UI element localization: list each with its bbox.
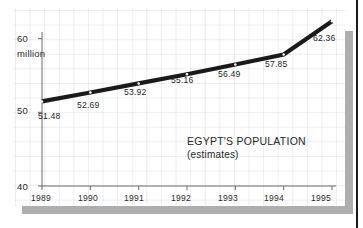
line-chart-svg (14, 8, 345, 206)
x-tick-label-1994: 1994 (264, 194, 284, 203)
x-tick-label-1992: 1992 (171, 194, 191, 203)
x-tick-label-1990: 1990 (78, 194, 98, 203)
chart-screenshot: 60 50 40 million 1989 1990 1991 1992 199… (0, 0, 363, 228)
data-label-1992: 55.16 (171, 76, 194, 85)
panel-drop-shadow-bottom (22, 206, 353, 214)
figure-right-border (356, 0, 358, 228)
panel-drop-shadow-right (345, 31, 353, 214)
x-tick-label-1991: 1991 (124, 194, 144, 203)
x-tick-label-1989: 1989 (31, 194, 51, 203)
y-tick-label-60: 60 (17, 34, 28, 44)
data-label-1990: 52.69 (77, 101, 100, 110)
x-tick-label-1995: 1995 (311, 194, 331, 203)
y-axis-unit-label: million (17, 49, 45, 59)
y-tick-label-40: 40 (17, 182, 28, 192)
data-label-1993: 56.49 (218, 70, 241, 79)
data-label-1994: 57.85 (265, 60, 288, 69)
data-label-1991: 53.92 (124, 88, 147, 97)
data-label-1989: 51.48 (38, 112, 61, 121)
y-tick-label-50: 50 (17, 106, 28, 116)
chart-subtitle: (estimates) (187, 150, 239, 160)
data-label-1995: 62.36 (313, 34, 336, 43)
x-tick-label-1993: 1993 (218, 194, 238, 203)
chart-panel: 60 50 40 million 1989 1990 1991 1992 199… (14, 8, 345, 206)
plot-area (14, 8, 345, 206)
chart-title: EGYPT'S POPULATION (187, 136, 306, 147)
